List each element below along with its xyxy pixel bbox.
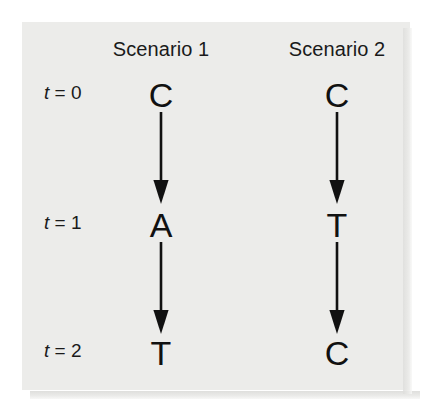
base-scenario2-t2: C [277, 336, 397, 370]
base-scenario1-t0: C [101, 78, 221, 112]
arrow-down-icon [141, 242, 181, 334]
column-header-scenario-1: Scenario 1 [61, 38, 261, 61]
column-header-scenario-2: Scenario 2 [237, 38, 428, 61]
base-scenario2-t0: C [277, 78, 397, 112]
base-scenario1-t2: T [101, 336, 221, 370]
row-label-t2-relation: = 2 [55, 340, 82, 361]
page-shadow-right [403, 28, 412, 394]
arrow-down-icon [141, 112, 181, 204]
row-label-t1-relation: = 1 [55, 212, 82, 233]
page-shadow-bottom [30, 391, 420, 399]
figure-root: Scenario 1 Scenario 2 t = 0 t = 1 t = 2 … [0, 0, 428, 414]
row-label-t0-relation: = 0 [55, 82, 82, 103]
arrow-down-icon [317, 112, 357, 204]
arrow-down-icon [317, 242, 357, 334]
base-scenario2-t1: T [277, 208, 397, 242]
base-scenario1-t1: A [101, 208, 221, 242]
